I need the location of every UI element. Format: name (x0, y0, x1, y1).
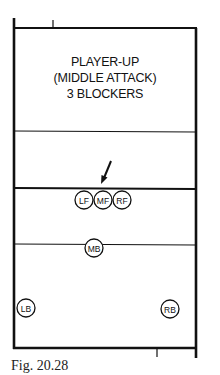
player-lb-label: LB (21, 304, 32, 314)
player-lf-label: LF (79, 196, 89, 206)
player-rf-label: RF (116, 196, 127, 206)
player-mb: MB (85, 239, 103, 257)
figure-caption: Fig. 20.28 (11, 358, 68, 374)
player-mf: MF (94, 191, 112, 209)
title-line-3: 3 BLOCKERS (67, 87, 144, 101)
player-lf: LF (75, 191, 93, 209)
player-rb: RB (161, 300, 179, 318)
player-lb: LB (17, 299, 35, 317)
player-rf: RF (113, 191, 131, 209)
near-attack-line (14, 244, 196, 245)
player-rb-label: RB (164, 305, 176, 315)
net-line (14, 188, 196, 189)
player-mf-label: MF (97, 196, 109, 206)
attack-arrow-icon (101, 161, 111, 184)
volleyball-court-diagram: PLAYER-UP (MIDDLE ATTACK) 3 BLOCKERS LF … (0, 0, 220, 375)
title-line-1: PLAYER-UP (71, 55, 139, 69)
title-line-2: (MIDDLE ATTACK) (54, 71, 157, 85)
player-mb-label: MB (88, 244, 101, 254)
far-attack-line (14, 131, 196, 132)
